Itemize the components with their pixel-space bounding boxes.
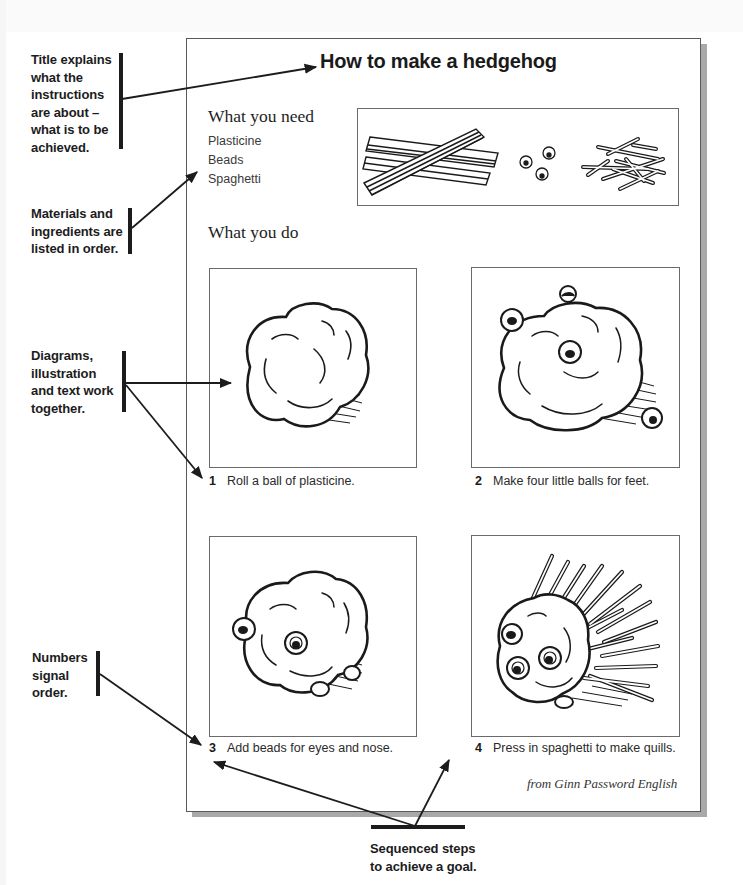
materials-annotation-bar — [128, 208, 132, 254]
step-number: 3 — [209, 741, 227, 755]
step-1-illustration — [209, 268, 417, 468]
step-text: Roll a ball of plasticine. — [227, 474, 355, 488]
beads-icon — [520, 147, 555, 180]
step-text: Make four little balls for feet. — [493, 474, 649, 488]
step-2-illustration — [471, 267, 680, 468]
left-margin — [0, 0, 6, 885]
numbers-annotation-bar — [96, 651, 100, 696]
step-number: 2 — [475, 474, 493, 488]
page-title: How to make a hedgehog — [320, 50, 557, 73]
materials-drawing — [358, 109, 678, 205]
sequence-annotation: Sequenced steps to achieve a goal. — [370, 840, 477, 875]
diagrams-annotation: Diagrams, illustration and text work tog… — [31, 347, 114, 417]
step-text: Press in spaghetti to make quills. — [493, 741, 676, 755]
top-margin — [0, 0, 743, 32]
what-you-do-heading: What you do — [208, 222, 298, 243]
step-1-caption: 1Roll a ball of plasticine. — [209, 474, 355, 488]
material-item: Spaghetti — [208, 172, 261, 186]
title-annotation: Title explains what the instructions are… — [31, 51, 112, 156]
material-item: Beads — [208, 153, 243, 167]
hedgehog-with-quills-icon — [472, 536, 679, 736]
ball-with-feet-icon — [472, 268, 679, 467]
diagrams-annotation-bar — [122, 351, 126, 412]
step-text: Add beads for eyes and nose. — [227, 741, 393, 755]
step-3-caption: 3Add beads for eyes and nose. — [209, 741, 393, 755]
step-number: 4 — [475, 741, 493, 755]
ball-with-eyes-and-nose-icon — [210, 537, 416, 736]
step-2-caption: 2Make four little balls for feet. — [475, 474, 649, 488]
plasticine-ball-icon — [210, 269, 416, 467]
plasticine-sticks-icon — [363, 129, 498, 195]
what-you-need-heading: What you need — [208, 106, 314, 127]
source-credit: from Ginn Password English — [527, 776, 677, 792]
title-annotation-bar — [119, 53, 123, 149]
step-3-illustration — [209, 536, 417, 737]
sequence-annotation-bar — [371, 825, 465, 829]
step-number: 1 — [209, 474, 227, 488]
step-4-caption: 4Press in spaghetti to make quills. — [475, 741, 676, 755]
materials-annotation: Materials and ingredients are listed in … — [31, 205, 123, 258]
step-4-illustration — [471, 535, 680, 737]
numbers-annotation: Numbers signal order. — [32, 649, 88, 702]
material-item: Plasticine — [208, 134, 262, 148]
materials-illustration — [357, 108, 679, 206]
